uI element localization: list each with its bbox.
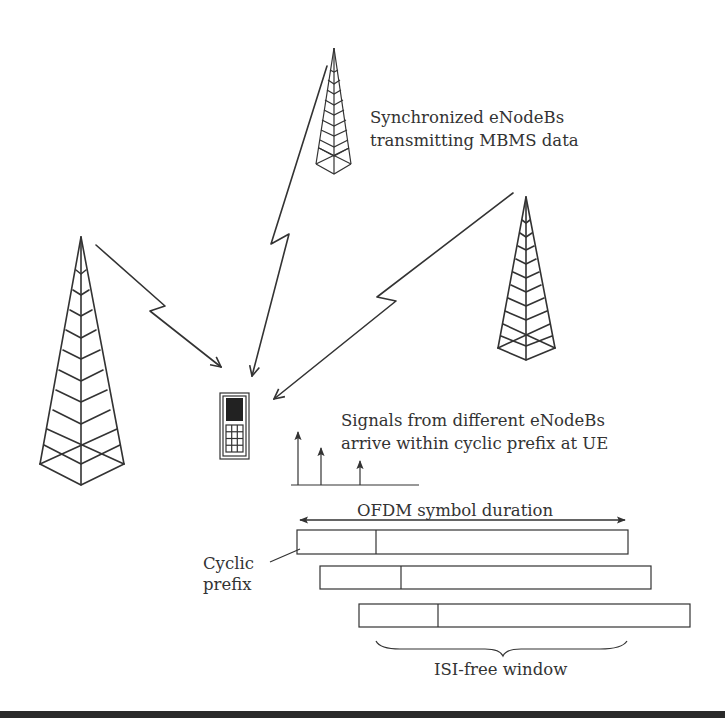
- cyclic-prefix-leader: [270, 549, 300, 562]
- cyclic-prefix-label-line1: Cyclic: [203, 554, 254, 573]
- isi-free-window-label: ISI-free window: [434, 660, 567, 679]
- cyclic-prefix-label-line2: prefix: [203, 575, 252, 594]
- isi-free-brace: [376, 641, 627, 656]
- ofdm-symbol-row-3: [359, 604, 690, 627]
- mbms-sfn-diagram: Synchronized eNodeBs transmitting MBMS d…: [0, 0, 725, 723]
- ofdm-duration-label: OFDM symbol duration: [357, 501, 554, 520]
- tower-right-icon: [498, 197, 555, 360]
- signals-label-line2: arrive within cyclic prefix at UE: [341, 434, 608, 453]
- signal-path-right: [274, 193, 513, 399]
- enodebs-label-line2: transmitting MBMS data: [370, 131, 579, 150]
- tower-top-icon: [316, 48, 351, 174]
- ofdm-symbol-row-2: [320, 566, 651, 589]
- ofdm-symbol-row-1: [297, 530, 628, 554]
- enodebs-label-line1: Synchronized eNodeBs: [370, 108, 564, 127]
- ue-phone-icon: [220, 393, 249, 459]
- signals-label-line1: Signals from different eNodeBs: [341, 411, 605, 430]
- tower-left-icon: [40, 237, 124, 485]
- signal-path-left: [96, 245, 221, 367]
- signal-path-top: [252, 66, 327, 376]
- bottom-rule: [0, 711, 725, 718]
